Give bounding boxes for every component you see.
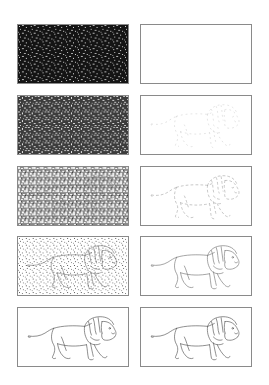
noise-image [18,25,128,83]
predicted-sketch-step-4 [140,236,252,296]
noisy-image-step-4 [17,236,129,296]
noisy-image-step-3 [17,166,129,226]
lion-sketch [141,308,251,366]
noise-image [18,237,128,295]
noisy-image-step-2 [17,95,129,155]
predicted-sketch-step-1 [140,24,252,84]
noise-image [18,96,128,154]
lion-sketch [141,167,251,225]
predicted-sketch-step-5 [140,307,252,367]
predicted-sketch-step-3 [140,166,252,226]
lion-sketch [141,96,251,154]
blank-canvas [141,25,251,83]
lion-sketch [18,308,128,366]
noisy-image-step-1 [17,24,129,84]
noise-image [18,167,128,225]
lion-sketch [141,237,251,295]
noisy-image-step-5 [17,307,129,367]
predicted-sketch-step-2 [140,95,252,155]
